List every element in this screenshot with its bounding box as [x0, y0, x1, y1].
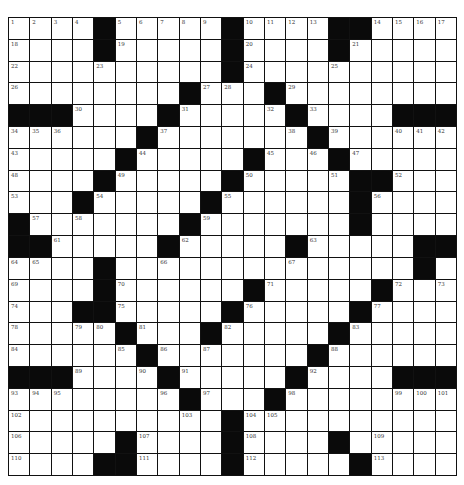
grid-cell[interactable]: 70 — [116, 280, 136, 301]
grid-cell[interactable] — [30, 40, 50, 61]
grid-cell[interactable] — [329, 454, 349, 475]
grid-cell[interactable]: 27 — [201, 83, 221, 104]
grid-cell[interactable] — [116, 411, 136, 432]
grid-cell[interactable] — [308, 323, 328, 344]
grid-cell[interactable] — [116, 127, 136, 148]
grid-cell[interactable]: 58 — [73, 214, 93, 235]
grid-cell[interactable]: 99 — [393, 389, 413, 410]
grid-cell[interactable] — [73, 454, 93, 475]
grid-cell[interactable] — [414, 280, 434, 301]
grid-cell[interactable] — [329, 258, 349, 279]
grid-cell[interactable] — [73, 411, 93, 432]
grid-cell[interactable] — [393, 345, 413, 366]
grid-cell[interactable]: 62 — [180, 236, 200, 257]
grid-cell[interactable] — [244, 214, 264, 235]
grid-cell[interactable]: 91 — [180, 367, 200, 388]
grid-cell[interactable] — [329, 236, 349, 257]
grid-cell[interactable] — [372, 389, 392, 410]
grid-cell[interactable] — [52, 302, 72, 323]
grid-cell[interactable] — [329, 411, 349, 432]
grid-cell[interactable]: 6 — [137, 18, 157, 39]
grid-cell[interactable] — [265, 236, 285, 257]
grid-cell[interactable] — [414, 83, 434, 104]
grid-cell[interactable] — [137, 389, 157, 410]
grid-cell[interactable] — [329, 214, 349, 235]
grid-cell[interactable] — [158, 40, 178, 61]
grid-cell[interactable] — [372, 236, 392, 257]
grid-cell[interactable] — [201, 280, 221, 301]
grid-cell[interactable]: 15 — [393, 18, 413, 39]
grid-cell[interactable] — [73, 389, 93, 410]
grid-cell[interactable] — [180, 280, 200, 301]
grid-cell[interactable] — [414, 432, 434, 453]
grid-cell[interactable]: 51 — [329, 171, 349, 192]
grid-cell[interactable]: 113 — [372, 454, 392, 475]
grid-cell[interactable]: 93 — [9, 389, 29, 410]
grid-cell[interactable] — [158, 149, 178, 170]
grid-cell[interactable]: 52 — [393, 171, 413, 192]
grid-cell[interactable] — [329, 302, 349, 323]
grid-cell[interactable]: 79 — [73, 323, 93, 344]
grid-cell[interactable] — [180, 62, 200, 83]
grid-cell[interactable] — [201, 411, 221, 432]
grid-cell[interactable]: 108 — [244, 432, 264, 453]
grid-cell[interactable] — [393, 323, 413, 344]
grid-cell[interactable]: 21 — [350, 40, 370, 61]
grid-cell[interactable] — [201, 105, 221, 126]
grid-cell[interactable] — [52, 411, 72, 432]
grid-cell[interactable]: 34 — [9, 127, 29, 148]
grid-cell[interactable]: 85 — [116, 345, 136, 366]
grid-cell[interactable] — [30, 345, 50, 366]
grid-cell[interactable] — [265, 454, 285, 475]
grid-cell[interactable]: 69 — [9, 280, 29, 301]
grid-cell[interactable]: 45 — [265, 149, 285, 170]
grid-cell[interactable] — [393, 149, 413, 170]
grid-cell[interactable] — [52, 83, 72, 104]
grid-cell[interactable] — [116, 105, 136, 126]
grid-cell[interactable] — [372, 323, 392, 344]
grid-cell[interactable] — [180, 345, 200, 366]
grid-cell[interactable] — [244, 192, 264, 213]
grid-cell[interactable] — [222, 105, 242, 126]
grid-cell[interactable] — [73, 127, 93, 148]
grid-cell[interactable] — [73, 62, 93, 83]
grid-cell[interactable]: 42 — [436, 127, 456, 148]
grid-cell[interactable] — [265, 171, 285, 192]
grid-cell[interactable] — [73, 345, 93, 366]
grid-cell[interactable] — [52, 280, 72, 301]
grid-cell[interactable] — [116, 83, 136, 104]
grid-cell[interactable] — [329, 389, 349, 410]
grid-cell[interactable] — [30, 62, 50, 83]
grid-cell[interactable]: 97 — [201, 389, 221, 410]
grid-cell[interactable] — [329, 83, 349, 104]
grid-cell[interactable]: 94 — [30, 389, 50, 410]
grid-cell[interactable] — [222, 345, 242, 366]
grid-cell[interactable]: 73 — [436, 280, 456, 301]
grid-cell[interactable]: 33 — [308, 105, 328, 126]
grid-cell[interactable] — [329, 105, 349, 126]
grid-cell[interactable] — [94, 432, 114, 453]
grid-cell[interactable] — [94, 214, 114, 235]
grid-cell[interactable]: 81 — [137, 323, 157, 344]
grid-cell[interactable] — [94, 345, 114, 366]
grid-cell[interactable] — [137, 258, 157, 279]
grid-cell[interactable]: 83 — [350, 323, 370, 344]
grid-cell[interactable] — [52, 214, 72, 235]
grid-cell[interactable] — [116, 258, 136, 279]
grid-cell[interactable] — [137, 214, 157, 235]
grid-cell[interactable] — [222, 214, 242, 235]
grid-cell[interactable] — [393, 432, 413, 453]
grid-cell[interactable] — [94, 389, 114, 410]
grid-cell[interactable]: 44 — [137, 149, 157, 170]
grid-cell[interactable] — [116, 367, 136, 388]
grid-cell[interactable] — [414, 302, 434, 323]
grid-cell[interactable] — [265, 367, 285, 388]
grid-cell[interactable] — [436, 411, 456, 432]
grid-cell[interactable]: 12 — [286, 18, 306, 39]
grid-cell[interactable] — [308, 62, 328, 83]
grid-cell[interactable] — [308, 432, 328, 453]
grid-cell[interactable] — [350, 83, 370, 104]
grid-cell[interactable]: 4 — [73, 18, 93, 39]
grid-cell[interactable]: 48 — [9, 171, 29, 192]
grid-cell[interactable] — [265, 258, 285, 279]
